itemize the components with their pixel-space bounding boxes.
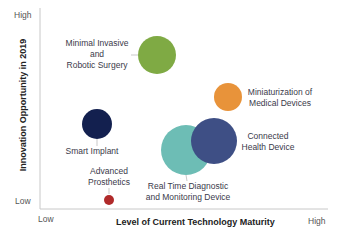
bubble-smart-implant[interactable] [82, 109, 112, 139]
bubble-miniaturization[interactable] [214, 83, 242, 111]
x-axis-title: Level of Current Technology Maturity [116, 217, 275, 227]
label-line: Medical Devices [244, 98, 316, 109]
x-tick-high: High [308, 216, 325, 226]
label-line: and Monitoring Device [143, 192, 233, 203]
label-line: Minimal Invasive [62, 38, 132, 49]
label-real-time-diagnostic: Real Time Diagnostic and Monitoring Devi… [143, 181, 233, 203]
label-line: Miniaturization of [244, 87, 316, 98]
label-robotic-surgery: Minimal Invasive and Robotic Surgery [62, 38, 132, 71]
bubble-robotic-surgery[interactable] [138, 36, 176, 74]
label-line: Prosthetics [84, 177, 134, 188]
label-smart-implant: Smart Implant [60, 146, 124, 157]
y-axis-title: Innovation Opportunity in 2019 [18, 35, 28, 175]
label-line: and [62, 49, 132, 60]
label-miniaturization: Miniaturization of Medical Devices [244, 87, 316, 109]
label-line: Robotic Surgery [62, 60, 132, 71]
label-line: Connected [238, 131, 298, 142]
label-line: Advanced [84, 166, 134, 177]
bubble-chart [0, 0, 346, 239]
bubble-advanced-prosthetics[interactable] [104, 195, 114, 205]
label-line: Real Time Diagnostic [143, 181, 233, 192]
label-advanced-prosthetics: Advanced Prosthetics [84, 166, 134, 188]
y-tick-low: Low [15, 196, 31, 206]
y-tick-high: High [14, 10, 31, 20]
x-tick-low: Low [38, 214, 54, 224]
label-connected-health: Connected Health Device [238, 131, 298, 153]
bubble-connected-health[interactable] [191, 118, 237, 164]
label-line: Health Device [238, 142, 298, 153]
label-line: Smart Implant [60, 146, 124, 157]
